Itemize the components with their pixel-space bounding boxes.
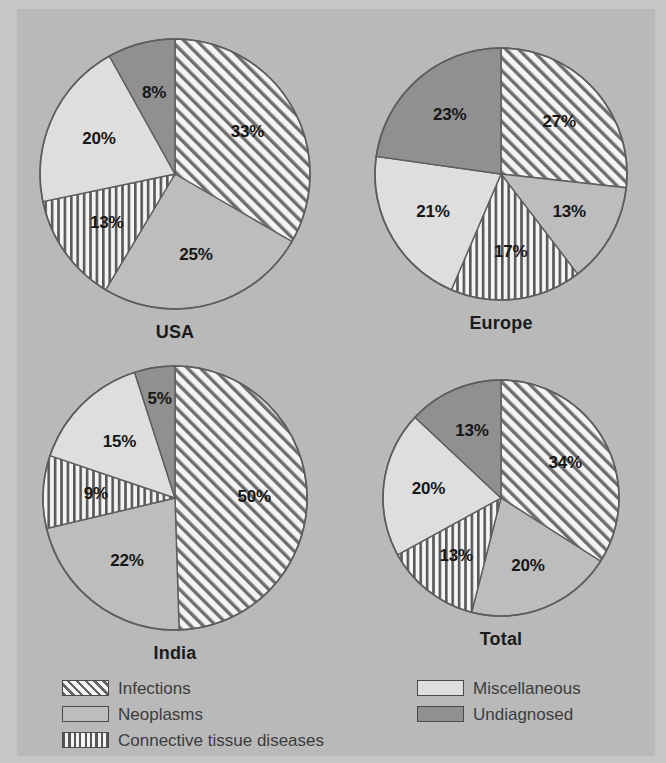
slice-value-label: 5% [147,389,171,409]
legend-item-miscellaneous: Miscellaneous [417,675,662,701]
slice-value-label: 34% [548,453,581,473]
slice-value-label: 8% [142,83,166,103]
legend-label-miscellaneous: Miscellaneous [473,680,581,697]
pie-title-europe: Europe [373,313,629,334]
pie-chart-total: 34%20%13%20%13%Total [381,378,621,618]
pie-title-usa: USA [38,322,312,343]
page-frame-top [0,0,666,9]
slice-value-label: 20% [412,479,445,499]
slice-value-label: 22% [110,551,143,571]
pie-graphic-europe: 27%13%17%21%23% [373,46,629,302]
slice-value-label: 50% [237,487,270,507]
slice-value-label: 21% [416,202,449,222]
slice-value-label: 13% [455,421,488,441]
page-frame-bottom [0,756,666,763]
slice-value-label: 13% [90,213,123,233]
legend-item-undiagnosed: Undiagnosed [417,701,662,727]
slice-value-label: 33% [231,122,264,142]
legend-swatch-connective-icon [62,732,109,748]
pie-title-india: India [41,643,309,664]
slice-value-label: 20% [511,556,544,576]
legend-label-undiagnosed: Undiagnosed [473,706,573,723]
legend-column-right: MiscellaneousUndiagnosed [417,675,662,727]
legend-label-infections: Infections [118,680,191,697]
pie-chart-usa: 33%25%13%20%8%USA [38,37,312,311]
legend-swatch-undiagnosed-icon [417,706,464,722]
legend-item-neoplasms: Neoplasms [62,701,392,727]
slice-value-label: 15% [103,432,136,452]
pie-graphic-usa: 33%25%13%20%8% [38,37,312,311]
legend-swatch-infections-icon [62,680,109,696]
slice-value-label: 25% [179,245,212,265]
legend-swatch-miscellaneous-icon [417,680,464,696]
pie-chart-figure: 33%25%13%20%8%USA 27%13%17%21%23%Europe … [0,0,666,763]
pie-title-total: Total [381,629,621,650]
slice-value-label: 13% [439,546,472,566]
pie-chart-india: 50%22%9%15%5%India [41,364,309,632]
slice-value-label: 20% [82,129,115,149]
slice-value-label: 9% [84,484,108,504]
slice-value-label: 23% [433,105,466,125]
legend-column-left: InfectionsNeoplasmsConnective tissue dis… [62,675,392,753]
chart-legend: InfectionsNeoplasmsConnective tissue dis… [62,675,662,757]
pie-chart-europe: 27%13%17%21%23%Europe [373,46,629,302]
legend-swatch-neoplasms-icon [62,706,109,722]
slice-value-label: 27% [542,112,575,132]
pie-graphic-india: 50%22%9%15%5% [41,364,309,632]
legend-label-neoplasms: Neoplasms [118,706,203,723]
pie-graphic-total: 34%20%13%20%13% [381,378,621,618]
page-frame-left [0,0,17,763]
page-frame-right [655,0,666,763]
legend-label-connective: Connective tissue diseases [118,732,324,749]
legend-item-infections: Infections [62,675,392,701]
plot-area: 33%25%13%20%8%USA 27%13%17%21%23%Europe … [17,9,655,756]
slice-value-label: 17% [494,242,527,262]
legend-item-connective: Connective tissue diseases [62,727,392,753]
slice-value-label: 13% [552,202,585,222]
